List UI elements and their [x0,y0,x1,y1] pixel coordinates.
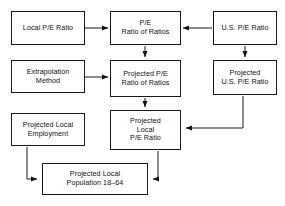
node-projected-pe-ratio-of-ratios[interactable]: Projected P/E Ratio of Ratios [110,60,181,97]
flowchart-canvas: Local P/E Ratio P/E Ratio of Ratios U.S.… [0,0,285,206]
node-label: Projected Local P/E Ratio [128,117,163,143]
node-projected-us-pe-ratio[interactable]: Projected U.S. P/E Ratio [213,60,277,95]
node-label: P/E Ratio of Ratios [120,19,172,36]
node-local-pe-ratio[interactable]: Local P/E Ratio [11,11,85,45]
node-us-pe-ratio[interactable]: U.S. P/E Ratio [213,11,277,45]
node-projected-local-population[interactable]: Projected Local Population 18–64 [42,163,148,195]
node-label: U.S. P/E Ratio [219,24,270,33]
edge-projected-us-to-local-ratio [186,96,243,128]
node-label: Extrapolation Method [25,68,72,85]
node-projected-local-pe-ratio[interactable]: Projected Local P/E Ratio [110,110,181,150]
node-label: Projected Local Employment [21,121,75,138]
node-pe-ratio-of-ratios[interactable]: P/E Ratio of Ratios [110,11,181,45]
node-label: Projected Local Population 18–64 [65,170,126,187]
node-extrapolation-method[interactable]: Extrapolation Method [11,60,85,93]
node-label: Projected U.S. P/E Ratio [219,69,270,86]
edge-employment-to-population [27,147,37,179]
node-label: Projected P/E Ratio of Ratios [120,70,172,87]
cropped-caption-strip [0,0,285,8]
node-projected-local-employment[interactable]: Projected Local Employment [11,113,85,146]
edge-local-ratio-to-population [153,151,158,179]
node-label: Local P/E Ratio [21,24,75,33]
